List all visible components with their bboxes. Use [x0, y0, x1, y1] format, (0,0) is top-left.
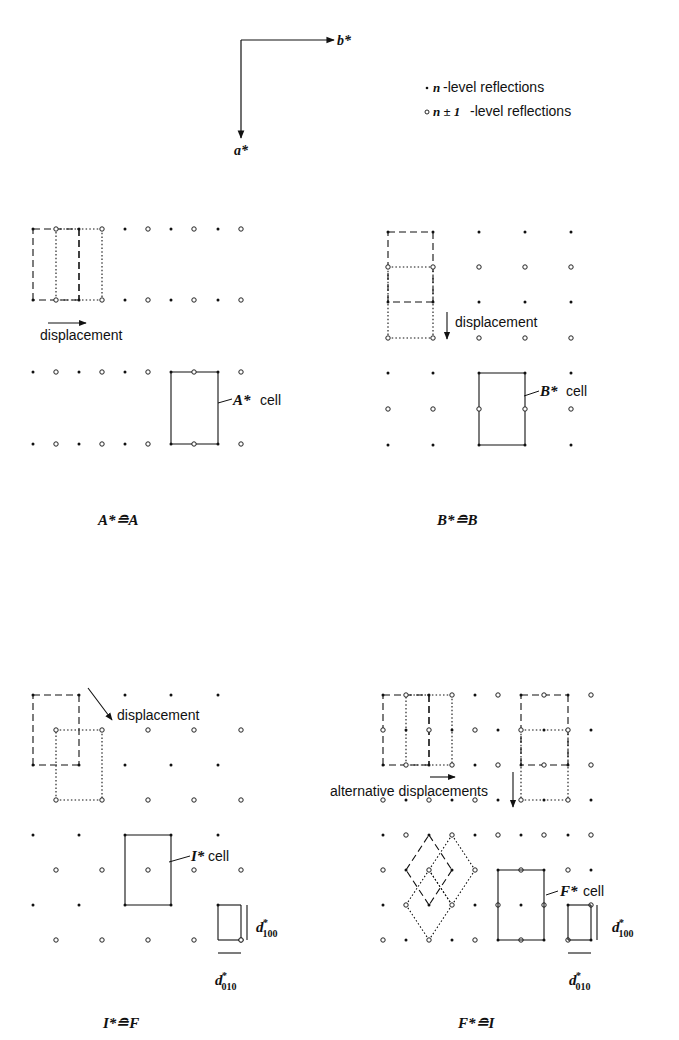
rhombus-cell-outline [406, 905, 429, 940]
n-pm-1-level-reflection-circle [239, 227, 243, 231]
n-level-reflection-dot [387, 444, 390, 447]
n-pm-1-level-reflection-circle [477, 407, 481, 411]
n-level-reflection-dot [217, 228, 220, 231]
n-pm-1-level-reflection-circle [450, 903, 454, 907]
n-level-reflection-dot [474, 764, 477, 767]
n-level-reflection-dot [497, 729, 500, 732]
n-level-reflection-dot [78, 299, 81, 302]
n-pm-1-level-reflection-circle [569, 265, 573, 269]
n-pm-1-level-reflection-circle [54, 868, 58, 872]
n-level-reflection-dot [217, 371, 220, 374]
displacement-arrow [88, 688, 112, 720]
n-level-reflection-dot [387, 372, 390, 375]
displacement-label: displacement [455, 314, 538, 330]
n-level-reflection-dot [387, 231, 390, 234]
n-pm-1-level-reflection-circle [386, 407, 390, 411]
n-level-reflection-dot [78, 228, 81, 231]
n-pm-1-level-reflection-circle [54, 938, 58, 942]
n-level-reflection-dot [78, 834, 81, 837]
n-pm-1-level-reflection-circle [404, 763, 408, 767]
cell-leader-line [524, 391, 539, 396]
n-pm-1-level-reflection-circle [192, 227, 196, 231]
n-level-reflection-dot [124, 694, 127, 697]
rhombus-cell-outline [452, 835, 475, 870]
legend-n-pm-1-level-text: -level reflections [470, 103, 571, 119]
n-level-reflection-dot [387, 301, 390, 304]
cell-suffix: cell [208, 848, 229, 864]
n-pm-1-level-reflection-circle [146, 370, 150, 374]
i-star-cell-label: I* [190, 848, 205, 864]
a-star-cell-label: A* [232, 392, 251, 408]
cell-suffix: cell [260, 392, 281, 408]
n-level-reflection-dot [432, 231, 435, 234]
n-level-reflection-dot [78, 904, 81, 907]
n-pm-1-level-reflection-circle [569, 336, 573, 340]
n-pm-1-level-reflection-circle [566, 728, 570, 732]
n-pm-1-level-reflection-circle [431, 407, 435, 411]
n-pm-1-level-reflection-circle [386, 336, 390, 340]
legend-filled-dot-icon [426, 87, 429, 90]
rhombus-cell-outline [406, 870, 429, 905]
n-pm-1-level-reflection-circle [450, 833, 454, 837]
n-level-reflection-dot [124, 299, 127, 302]
n-pm-1-level-reflection-circle [239, 298, 243, 302]
n-pm-1-level-reflection-circle [450, 763, 454, 767]
n-pm-1-level-reflection-circle [473, 728, 477, 732]
n-pm-1-level-reflection-circle [192, 798, 196, 802]
rhombus-cell-outline [429, 835, 452, 870]
n-level-reflection-dot [382, 904, 385, 907]
rhombus-cell-outline [406, 835, 429, 870]
n-pm-1-level-reflection-circle [100, 298, 104, 302]
n-pm-1-level-reflection-circle [146, 798, 150, 802]
legend-n-symbol: n [433, 80, 440, 95]
n-pm-1-level-reflection-circle [569, 407, 573, 411]
n-level-reflection-dot [432, 301, 435, 304]
d010-label: d*010 [215, 970, 237, 992]
displacement-label: alternative displacements [330, 783, 488, 799]
n-level-reflection-dot [405, 729, 408, 732]
n-level-reflection-dot [428, 764, 431, 767]
n-pm-1-level-reflection-circle [381, 938, 385, 942]
n-pm-1-level-reflection-circle [566, 798, 570, 802]
n-level-reflection-dot [524, 372, 527, 375]
n-pm-1-level-reflection-circle [54, 798, 58, 802]
n-pm-1-level-reflection-circle [542, 763, 546, 767]
f-star-cell-label: F* [559, 883, 578, 899]
n-level-reflection-dot [478, 231, 481, 234]
n-pm-1-level-reflection-circle [239, 798, 243, 802]
n-pm-1-level-reflection-circle [477, 265, 481, 269]
n-pm-1-level-reflection-circle [473, 938, 477, 942]
n-level-reflection-dot [32, 228, 35, 231]
panel-i-caption: I*≘F [102, 1015, 139, 1031]
n-level-reflection-dot [432, 372, 435, 375]
n-level-reflection-dot [428, 904, 431, 907]
n-level-reflection-dot [124, 764, 127, 767]
n-level-reflection-dot [543, 729, 546, 732]
n-level-reflection-dot [474, 834, 477, 837]
n-pm-1-level-reflection-circle [239, 728, 243, 732]
n-pm-1-level-reflection-circle [427, 728, 431, 732]
n-pm-1-level-reflection-circle [496, 833, 500, 837]
n-level-reflection-dot [570, 301, 573, 304]
n-level-reflection-dot [567, 834, 570, 837]
n-level-reflection-dot [478, 372, 481, 375]
n-pm-1-level-reflection-circle [381, 728, 385, 732]
n-pm-1-level-reflection-circle [100, 798, 104, 802]
n-level-reflection-dot [78, 443, 81, 446]
n-pm-1-level-reflection-circle [54, 728, 58, 732]
displacement-label: displacement [40, 327, 123, 343]
n-pm-1-level-reflection-circle [146, 868, 150, 872]
d100-label: d*100 [612, 917, 634, 939]
n-level-reflection-dot [217, 443, 220, 446]
n-level-reflection-dot [570, 372, 573, 375]
n-pm-1-level-reflection-circle [589, 763, 593, 767]
n-pm-1-level-reflection-circle [239, 868, 243, 872]
n-pm-1-level-reflection-circle [404, 903, 408, 907]
n-pm-1-level-reflection-circle [473, 868, 477, 872]
n-level-reflection-dot [520, 834, 523, 837]
n-level-reflection-dot [382, 834, 385, 837]
cell-leader-line [169, 856, 190, 862]
n-level-reflection-dot [382, 694, 385, 697]
n-pm-1-level-reflection-circle [192, 728, 196, 732]
n-pm-1-level-reflection-circle [54, 442, 58, 446]
